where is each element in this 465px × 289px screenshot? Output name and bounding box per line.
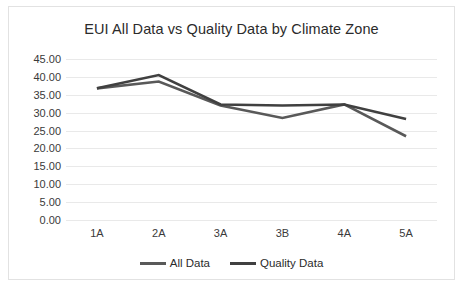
chart-legend: All DataQuality Data xyxy=(9,257,454,269)
x-axis-tick: 4A xyxy=(338,227,351,239)
legend-line-icon xyxy=(230,262,256,265)
x-axis-tick: 1A xyxy=(90,227,103,239)
x-axis-tick-labels: 1A2A3A3B4A5A xyxy=(66,227,437,245)
y-axis-tick: 20.00 xyxy=(9,142,61,154)
x-axis-tick: 3B xyxy=(276,227,289,239)
y-axis-tick: 45.00 xyxy=(9,53,61,65)
y-axis-tick: 5.00 xyxy=(9,196,61,208)
legend-entry[interactable]: Quality Data xyxy=(230,257,323,269)
gridline xyxy=(66,220,437,221)
legend-entry[interactable]: All Data xyxy=(140,257,210,269)
chart-frame: EUI All Data vs Quality Data by Climate … xyxy=(8,6,455,280)
y-axis-tick: 30.00 xyxy=(9,107,61,119)
legend-line-icon xyxy=(140,262,166,265)
y-axis-tick: 10.00 xyxy=(9,178,61,190)
y-axis-tick: 15.00 xyxy=(9,160,61,172)
x-axis-tick: 3A xyxy=(214,227,227,239)
x-axis-tick: 5A xyxy=(399,227,412,239)
series-lines xyxy=(66,59,437,220)
chart-title: EUI All Data vs Quality Data by Climate … xyxy=(9,21,454,37)
x-axis-tick: 2A xyxy=(152,227,165,239)
y-axis-tick: 35.00 xyxy=(9,89,61,101)
y-axis-tick: 25.00 xyxy=(9,125,61,137)
legend-label: All Data xyxy=(170,257,210,269)
y-axis-tick-labels: 45.0040.0035.0030.0025.0020.0015.0010.00… xyxy=(9,59,61,220)
legend-label: Quality Data xyxy=(260,257,323,269)
plot-area xyxy=(66,59,437,220)
y-axis-tick: 40.00 xyxy=(9,71,61,83)
chart-screenshot: EUI All Data vs Quality Data by Climate … xyxy=(0,0,465,289)
y-axis-tick: 0.00 xyxy=(9,214,61,226)
